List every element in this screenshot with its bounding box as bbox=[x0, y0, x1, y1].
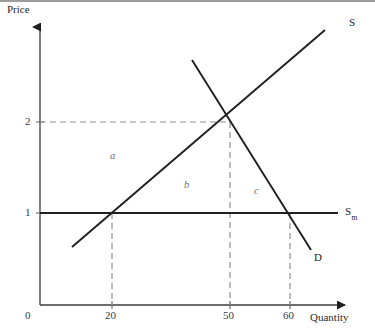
chart-plot-area bbox=[0, 0, 375, 332]
world-price-label: Sm bbox=[345, 206, 357, 220]
x-tick-label-50: 50 bbox=[223, 310, 234, 321]
x-tick-label-60: 60 bbox=[283, 310, 294, 321]
y-axis-title: Price bbox=[7, 4, 30, 15]
x-axis-title: Quantity bbox=[310, 312, 349, 323]
supply-curve-label: S bbox=[349, 17, 355, 28]
world-price-label-subscript: m bbox=[351, 213, 357, 222]
origin-label: 0 bbox=[25, 310, 31, 321]
area-label-a: a bbox=[110, 151, 115, 162]
y-tick-label-1: 1 bbox=[25, 207, 31, 218]
demand-curve-label: D bbox=[314, 252, 322, 263]
supply-demand-chart: Price Quantity 0 2 1 20 50 60 S D Sm a b… bbox=[0, 0, 375, 332]
demand-curve-d bbox=[192, 60, 311, 250]
supply-curve-s bbox=[72, 30, 325, 247]
x-tick-label-20: 20 bbox=[105, 310, 116, 321]
y-tick-label-2: 2 bbox=[25, 116, 31, 127]
area-label-b: b bbox=[184, 180, 189, 191]
area-label-c: c bbox=[254, 186, 259, 197]
